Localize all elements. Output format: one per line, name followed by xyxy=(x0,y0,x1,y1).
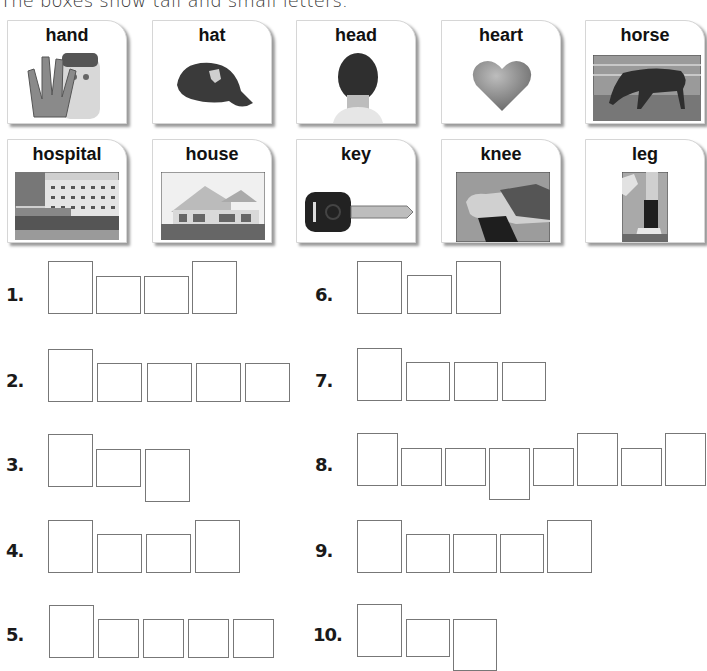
letter-box-tall[interactable] xyxy=(48,261,93,314)
letter-box-tall[interactable] xyxy=(357,348,402,401)
knee-photo-icon xyxy=(456,172,550,242)
letter-box-small[interactable] xyxy=(500,534,544,573)
letter-box-small[interactable] xyxy=(621,448,662,486)
letter-box-small[interactable] xyxy=(188,619,229,658)
letter-box-tall[interactable] xyxy=(547,520,592,573)
card-label: hat xyxy=(153,25,271,46)
card-label: house xyxy=(153,144,271,165)
letter-box-small[interactable] xyxy=(96,449,141,487)
picture-card-leg: leg xyxy=(585,139,705,243)
exercise-number-8: 8. xyxy=(315,454,332,475)
letter-box-descender[interactable] xyxy=(453,619,497,671)
exercise-number-4: 4. xyxy=(6,540,23,561)
letter-box-tall[interactable] xyxy=(195,520,240,573)
letter-box-small[interactable] xyxy=(502,362,546,401)
horse-photo-icon xyxy=(593,55,701,121)
house-photo-icon xyxy=(161,172,265,240)
letter-box-small[interactable] xyxy=(143,619,184,658)
letter-box-small[interactable] xyxy=(406,619,450,657)
letter-box-small[interactable] xyxy=(245,363,290,402)
picture-card-knee: knee xyxy=(441,139,561,243)
letter-box-descender[interactable] xyxy=(145,449,190,502)
card-label: hospital xyxy=(8,144,126,165)
letter-box-small[interactable] xyxy=(445,448,486,486)
letter-box-small[interactable] xyxy=(97,363,142,402)
head-photo-icon xyxy=(333,49,383,123)
letter-box-small[interactable] xyxy=(233,619,274,658)
letter-box-tall[interactable] xyxy=(456,261,501,314)
letter-box-small[interactable] xyxy=(407,275,452,314)
card-label: hand xyxy=(8,25,126,46)
picture-card-house: house xyxy=(152,139,272,243)
picture-card-hand: hand xyxy=(7,20,127,124)
letter-box-tall[interactable] xyxy=(48,434,93,487)
letter-box-tall[interactable] xyxy=(665,433,706,486)
letter-box-tall[interactable] xyxy=(48,349,93,402)
picture-card-head: head xyxy=(296,20,416,124)
letter-box-tall[interactable] xyxy=(192,261,237,314)
card-label: head xyxy=(297,25,415,46)
letter-box-small[interactable] xyxy=(533,448,574,486)
letter-box-small[interactable] xyxy=(196,363,241,402)
exercise-number-2: 2. xyxy=(6,370,23,391)
letter-box-small[interactable] xyxy=(454,362,498,401)
letter-box-tall[interactable] xyxy=(357,520,402,573)
exercise-number-10: 10. xyxy=(313,624,342,645)
instruction-text: The boxes show tall and small letters. xyxy=(0,0,348,11)
hand-photo-icon xyxy=(22,49,112,121)
letter-box-small[interactable] xyxy=(406,362,450,401)
card-label: key xyxy=(297,144,415,165)
letter-box-small[interactable] xyxy=(97,534,142,573)
cap-photo-icon xyxy=(171,55,257,115)
leg-photo-icon xyxy=(622,172,668,242)
letter-box-tall[interactable] xyxy=(577,433,618,486)
letter-box-descender[interactable] xyxy=(489,448,530,500)
letter-box-small[interactable] xyxy=(96,276,141,314)
picture-card-heart: heart xyxy=(441,20,561,124)
letter-box-tall[interactable] xyxy=(357,604,402,657)
card-label: heart xyxy=(442,25,560,46)
picture-card-hospital: hospital xyxy=(7,139,127,243)
letter-box-small[interactable] xyxy=(144,276,189,314)
letter-box-small[interactable] xyxy=(146,534,191,573)
letter-box-small[interactable] xyxy=(406,534,450,573)
picture-card-key: key xyxy=(296,139,416,243)
exercise-number-5: 5. xyxy=(6,624,23,645)
letter-box-small[interactable] xyxy=(98,619,139,658)
key-photo-icon xyxy=(305,188,415,236)
exercise-number-6: 6. xyxy=(315,284,332,305)
letter-box-tall[interactable] xyxy=(49,605,94,658)
exercise-number-1: 1. xyxy=(6,284,23,305)
letter-box-small[interactable] xyxy=(147,363,192,402)
letter-box-small[interactable] xyxy=(453,534,497,573)
exercise-number-9: 9. xyxy=(315,540,332,561)
exercise-number-7: 7. xyxy=(315,370,332,391)
picture-card-horse: horse xyxy=(585,20,705,124)
card-label: horse xyxy=(586,25,704,46)
letter-box-small[interactable] xyxy=(401,448,442,486)
letter-box-tall[interactable] xyxy=(48,520,93,573)
card-label: leg xyxy=(586,144,704,165)
heart-icon xyxy=(470,57,534,113)
hospital-photo-icon xyxy=(15,172,119,240)
picture-card-hat: hat xyxy=(152,20,272,124)
exercise-number-3: 3. xyxy=(6,454,23,475)
card-label: knee xyxy=(442,144,560,165)
letter-box-tall[interactable] xyxy=(357,433,398,486)
letter-box-tall[interactable] xyxy=(357,261,402,314)
